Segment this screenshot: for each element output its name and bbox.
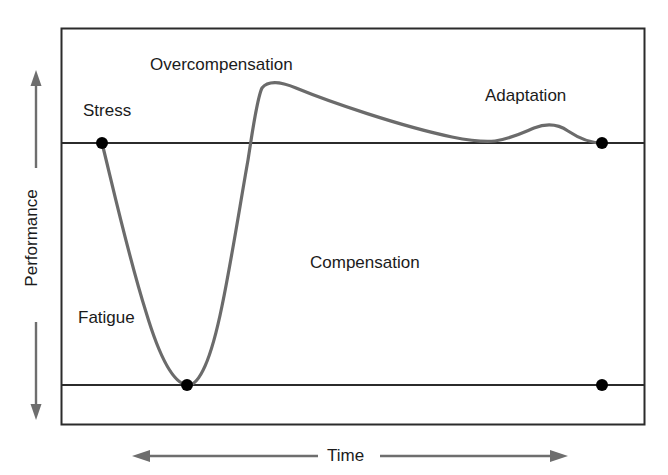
annotation-adaptation: Adaptation: [485, 87, 566, 104]
supercompensation-chart: [0, 0, 668, 475]
adaptation-end-point-upper-marker: [596, 137, 608, 149]
annotation-compensation: Compensation: [310, 254, 420, 271]
annotation-fatigue: Fatigue: [78, 309, 135, 326]
stress-point-marker: [96, 137, 108, 149]
chart-background: [0, 0, 668, 475]
annotation-overcompensation: Overcompensation: [150, 56, 293, 73]
y-axis-label: Performance: [23, 189, 40, 286]
adaptation-end-point-lower-marker: [596, 379, 608, 391]
fatigue-low-point-marker: [181, 379, 193, 391]
annotation-stress: Stress: [83, 102, 131, 119]
x-axis-label: Time: [327, 447, 364, 464]
